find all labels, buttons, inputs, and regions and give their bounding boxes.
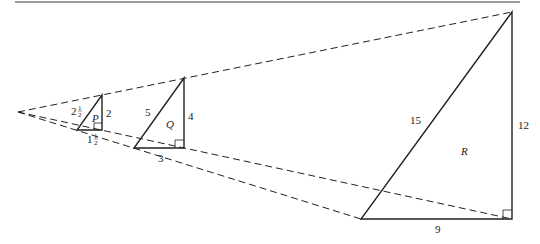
p-hypotenuse-den: 2: [78, 111, 82, 119]
projection-line-bottom-left: [18, 112, 361, 219]
triangle-q-label: Q: [166, 118, 174, 130]
p-horizontal-leg-den: 2: [94, 139, 98, 147]
triangle-q: [134, 78, 184, 148]
p-hypotenuse-whole: 2: [71, 105, 77, 117]
r-hypotenuse: 15: [410, 114, 422, 126]
q-vertical-leg: 4: [188, 110, 194, 122]
triangle-r-labels: 15 12 9 R: [410, 114, 529, 235]
triangle-q-labels: 5 4 3 Q: [145, 106, 194, 164]
q-horizontal-leg: 3: [158, 152, 164, 164]
similar-triangles-diagram: 2 1 2 2 1 1 2 P 5 4 3 Q 15 12 9 R: [0, 0, 540, 244]
triangle-p-label: P: [91, 112, 99, 124]
r-vertical-leg: 12: [518, 119, 529, 131]
triangle-r-label: R: [460, 145, 468, 157]
projection-line-top: [18, 12, 512, 112]
p-horizontal-leg-whole: 1: [87, 133, 93, 145]
r-horizontal-leg: 9: [435, 223, 441, 235]
projection-line-bottom-right: [18, 112, 512, 219]
triangle-r: [361, 12, 512, 219]
q-hypotenuse: 5: [145, 106, 151, 118]
p-vertical-leg: 2: [106, 107, 112, 119]
